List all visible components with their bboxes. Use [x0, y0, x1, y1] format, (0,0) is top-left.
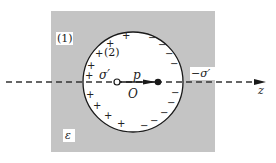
origin-label: O	[128, 87, 138, 101]
dipole-p-label: p	[133, 68, 141, 82]
svg-text:+: +	[86, 89, 94, 100]
svg-text:+: +	[85, 70, 93, 81]
svg-text:−: −	[148, 32, 156, 43]
sigma-positive-label: σ′	[99, 68, 110, 82]
svg-text:+: +	[104, 110, 112, 121]
dipole-negative-end-icon	[114, 79, 120, 85]
svg-text:−: −	[170, 58, 178, 69]
epsilon-label: ε	[65, 129, 71, 142]
svg-text:−: −	[160, 107, 168, 118]
svg-text:−: −	[150, 115, 158, 126]
svg-text:+: +	[122, 30, 130, 41]
svg-text:+: +	[95, 48, 103, 59]
z-axis-label: z	[257, 84, 264, 97]
svg-text:−: −	[140, 120, 148, 131]
sigma-negative-label: −σ′	[191, 67, 211, 80]
region-1-label: (1)	[57, 32, 73, 45]
dipole-positive-end-icon	[155, 79, 162, 86]
svg-text:+: +	[93, 100, 101, 111]
svg-text:+: +	[106, 38, 114, 49]
svg-text:+: +	[117, 118, 125, 129]
diagram-canvas: (1) (2) σ′ −σ′ p O ε z + + + + + + + + +…	[0, 0, 276, 163]
